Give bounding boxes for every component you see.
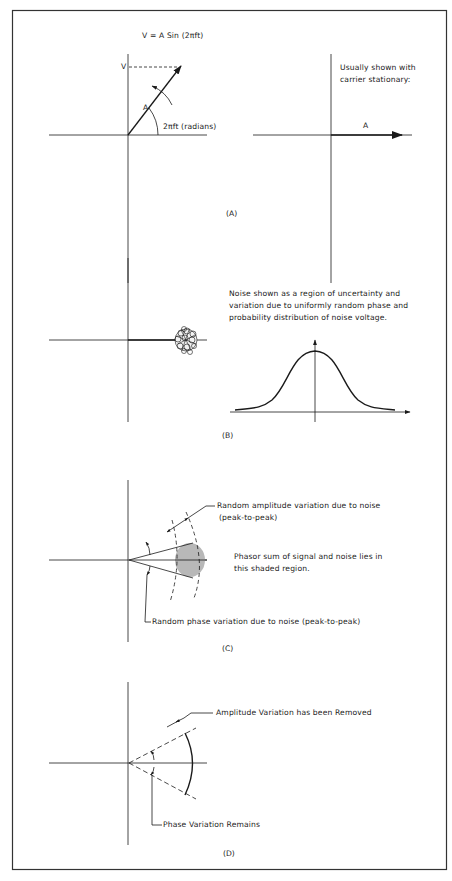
amplitude-arrow <box>167 518 188 532</box>
amplitude-variation-line1: Random amplitude variation due to noise <box>217 501 380 511</box>
stationary-note-line2: carrier stationary: <box>340 75 411 85</box>
stationary-note-line1: Usually shown with <box>340 63 416 73</box>
phase-variation-label: Random phase variation due to noise (pea… <box>152 617 360 627</box>
phase-leader <box>145 575 151 622</box>
panel-a <box>49 54 412 283</box>
noise-note-line2: variation due to uniformly random phase … <box>229 301 408 311</box>
dashed-wedge-upper <box>129 728 196 763</box>
noise-cloud <box>175 327 197 355</box>
phasor-sum-line2: this shaded region. <box>234 564 310 574</box>
caption-d: (D) <box>223 849 235 858</box>
stationary-a-label: A <box>363 121 368 131</box>
phase-remains-label: Phase Variation Remains <box>163 820 260 830</box>
phase-arrow-lower <box>147 566 150 575</box>
figure-border <box>13 11 447 870</box>
caption-c: (C) <box>222 644 233 653</box>
phase-arrow-d-lower <box>151 767 154 775</box>
amplitude-leader-d <box>184 713 213 718</box>
angle-label: 2πft (radians) <box>163 122 217 132</box>
panel-b <box>49 258 410 422</box>
angle-arc <box>149 108 158 135</box>
phase-leader-d <box>152 775 162 825</box>
caption-b: (B) <box>222 431 233 440</box>
equation-label: V = A Sin (2πft) <box>142 31 203 41</box>
phasor-sum-line1: Phasor sum of signal and noise lies in <box>234 552 383 562</box>
caption-a: (A) <box>226 209 237 218</box>
constant-amplitude-arc <box>185 733 193 795</box>
noise-note-line3: probability distribution of noise voltag… <box>229 313 387 323</box>
amplitude-removed-arrow <box>176 718 184 722</box>
amplitude-variation-line2: (peak-to-peak) <box>219 513 277 523</box>
v-label: V <box>121 62 126 72</box>
amplitude-a-label: A <box>143 103 148 113</box>
phase-arrow-upper <box>146 542 150 555</box>
noise-note-line1: Noise shown as a region of uncertainty a… <box>229 289 400 299</box>
amplitude-leader <box>188 506 215 518</box>
phase-arrow-d-upper <box>151 751 154 760</box>
amplitude-removed-label: Amplitude Variation has been Removed <box>216 708 372 718</box>
rotation-arrow <box>152 86 172 105</box>
phasor-diagram-figure <box>0 0 452 881</box>
